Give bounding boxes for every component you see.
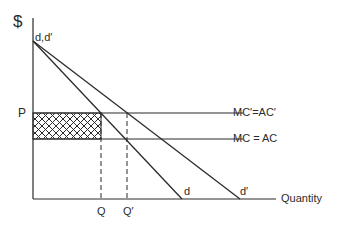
origin-curve-label: d,d′ [35, 32, 52, 43]
q-label: Q [97, 206, 106, 217]
cost-low-label: MC = AC [233, 133, 277, 144]
q-prime-label: Q′ [123, 206, 134, 217]
crosshatch-region [33, 113, 101, 139]
cost-high-label: MC′=AC′ [233, 107, 276, 118]
x-axis-label: Quantity [281, 193, 322, 204]
demand-d-label: d [184, 186, 190, 197]
demand-d-prime-label: d′ [240, 186, 248, 197]
y-axis-label: $ [13, 13, 22, 30]
price-label: P [18, 107, 26, 119]
